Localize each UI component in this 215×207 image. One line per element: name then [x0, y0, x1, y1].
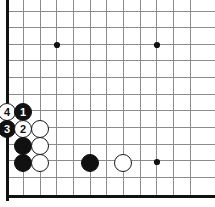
move-number-label: 2 — [20, 124, 26, 135]
black-stone[interactable] — [81, 154, 99, 172]
goban-grid[interactable] — [0, 0, 215, 207]
star-point-lower-right — [154, 159, 160, 165]
black-stone[interactable] — [14, 137, 32, 155]
white-stone[interactable] — [31, 154, 49, 172]
move-number-label: 1 — [20, 107, 26, 118]
move-number-label: 3 — [4, 124, 10, 135]
star-point-upper-right — [154, 42, 160, 48]
star-point-upper-left — [54, 42, 60, 48]
black-stone[interactable] — [14, 154, 32, 172]
white-stone[interactable] — [31, 120, 49, 138]
white-stone[interactable] — [114, 154, 132, 172]
black-stone[interactable]: 1 — [14, 103, 32, 121]
white-stone[interactable] — [31, 137, 49, 155]
white-stone[interactable]: 2 — [14, 120, 32, 138]
move-number-label: 4 — [4, 107, 10, 118]
go-board-diagram: 4132 — [0, 0, 215, 207]
